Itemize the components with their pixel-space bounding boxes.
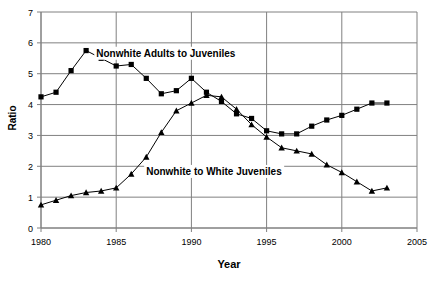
y-tick-label: 3 [28,131,33,141]
y-tick-label: 7 [28,8,33,18]
data-point-square [279,131,284,136]
data-point-square [339,113,344,118]
data-point-square [369,100,374,105]
series-label-2: Nonwhite to White Juveniles [146,166,282,177]
data-point-square [189,76,194,81]
y-tick-label: 0 [28,224,33,234]
data-point-square [174,88,179,93]
chart-background [0,0,437,282]
data-point-square [129,62,134,67]
data-point-square [324,117,329,122]
y-tick-label: 6 [28,38,33,48]
y-tick-label: 5 [28,69,33,79]
chart-container: 01234567 198019851990199520002005 Nonwhi… [0,0,437,282]
data-point-square [114,63,119,68]
data-point-square [53,90,58,95]
data-point-square [249,116,254,121]
data-point-square [84,48,89,53]
data-point-square [38,94,43,99]
data-point-square [68,68,73,73]
x-tick-label: 2000 [332,237,352,247]
x-tick-label: 1995 [257,237,277,247]
data-point-square [354,107,359,112]
data-point-square [309,124,314,129]
data-point-square [264,128,269,133]
x-tick-label: 1990 [181,237,201,247]
data-point-square [384,100,389,105]
x-tick-label: 1985 [106,237,126,247]
data-point-square [219,99,224,104]
ratio-line-chart: 01234567 198019851990199520002005 Nonwhi… [0,0,437,282]
y-tick-label: 4 [28,100,33,110]
y-tick-label: 1 [28,193,33,203]
y-tick-label: 2 [28,162,33,172]
data-point-square [159,91,164,96]
data-point-square [294,131,299,136]
x-tick-label: 1980 [31,237,51,247]
series-label-1: Nonwhite Adults to Juveniles [96,48,236,59]
data-point-square [144,76,149,81]
data-point-square [234,111,239,116]
x-axis-title: Year [217,258,241,270]
x-tick-label: 2005 [407,237,427,247]
y-axis-title: Ratio [7,106,18,131]
